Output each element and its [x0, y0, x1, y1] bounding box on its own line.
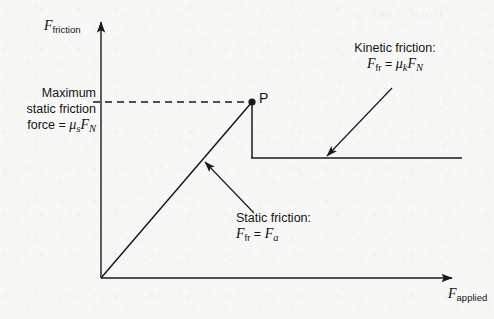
static-leader-arrow: [205, 162, 254, 213]
kinetic-leader-arrow: [327, 88, 392, 156]
kinetic-mu-subscript: k: [403, 62, 408, 73]
force-normal-subscript: N: [89, 123, 96, 134]
max-static-line-2: static friction: [8, 101, 96, 117]
y-axis-label: Ffriction: [44, 18, 81, 34]
static-friction-annotation: Static friction: Ffr = Fa: [236, 210, 328, 242]
force-normal-symbol: F: [80, 117, 89, 132]
kinetic-eq-F: F: [367, 56, 376, 71]
kinetic-equation: Ffr = μkFN: [345, 56, 445, 72]
static-eq-F-sub: fr: [245, 232, 251, 243]
peak-point-marker: [248, 98, 255, 105]
static-friction-line: [101, 102, 252, 278]
kinetic-FN-symbol: F: [407, 56, 416, 71]
static-eq-equals: =: [250, 227, 264, 241]
kinetic-mu-symbol: μ: [396, 56, 403, 71]
x-axis-label-subscript: applied: [457, 292, 488, 303]
y-axis-label-subscript: friction: [53, 24, 81, 35]
static-title: Static friction:: [236, 210, 328, 226]
max-static-line-1: Maximum: [8, 85, 96, 101]
kinetic-title: Kinetic friction:: [345, 40, 445, 56]
peak-point-label: P: [259, 90, 268, 106]
max-static-line-3: force = μsFN: [8, 117, 96, 133]
x-axis-label: Fapplied: [448, 286, 487, 302]
static-eq-F: F: [236, 226, 245, 241]
max-static-prefix: force =: [27, 118, 69, 132]
y-axis-label-symbol: F: [44, 18, 53, 33]
kinetic-eq-F-sub: fr: [376, 62, 382, 73]
max-static-friction-annotation: Maximum static friction force = μsFN: [8, 85, 96, 133]
static-eq-Fa-sub: a: [273, 232, 278, 243]
static-eq-Fa: F: [265, 226, 274, 241]
kinetic-FN-subscript: N: [416, 62, 423, 73]
static-equation: Ffr = Fa: [236, 226, 328, 242]
friction-force-diagram: Note: Seeing Ffriction: [0, 0, 494, 319]
kinetic-friction-annotation: Kinetic friction: Ffr = μkFN: [345, 40, 445, 72]
x-axis-label-symbol: F: [448, 286, 457, 301]
kinetic-eq-equals: =: [381, 57, 395, 71]
mu-subscript-s: s: [76, 123, 80, 134]
